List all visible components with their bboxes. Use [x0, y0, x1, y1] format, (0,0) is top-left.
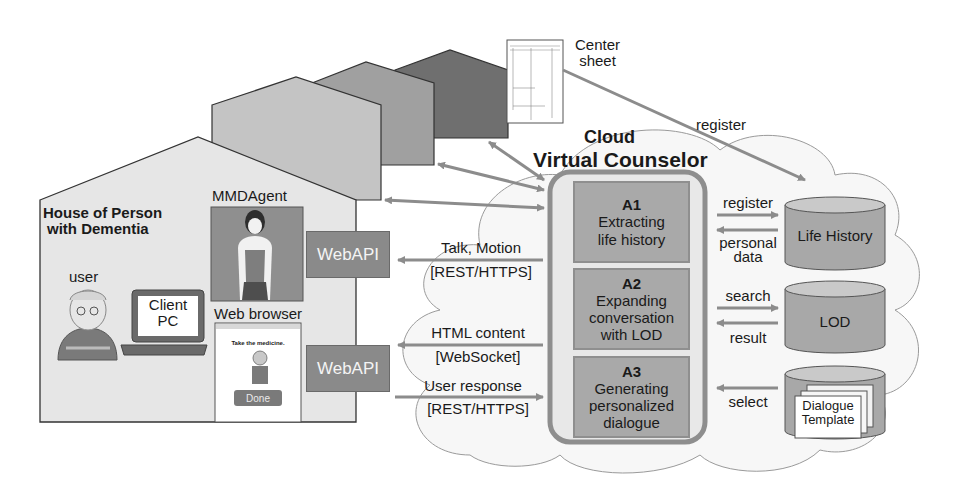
- web-browser-window: [215, 323, 301, 422]
- house-title-line1: House of Person: [43, 205, 162, 221]
- module-a1: A1 Extracting life history: [573, 181, 690, 263]
- center-sheet-icon: [507, 40, 563, 123]
- center-sheet-register-label: register: [696, 117, 746, 133]
- house-title: House of Person with Dementia: [43, 205, 162, 237]
- html-content-label: HTML content: [410, 325, 546, 341]
- module-a3-line3: dialogue: [603, 414, 660, 431]
- user-response-label: User response: [405, 378, 541, 394]
- module-a2-id: A2: [622, 275, 641, 292]
- talk-motion-protocol: [REST/HTTPS]: [413, 264, 549, 280]
- user-label: user: [69, 269, 98, 285]
- center-sheet-line2: sheet: [575, 53, 620, 69]
- webapi-top-box: WebAPI: [306, 231, 390, 278]
- module-a1-id: A1: [622, 196, 641, 213]
- module-a2-line1: Expanding: [596, 292, 667, 309]
- cloud-title: Cloud: [584, 128, 635, 147]
- module-a1-line1: Extracting: [598, 213, 665, 230]
- module-a3-line2: personalized: [589, 397, 674, 414]
- module-a3-line1: Generating: [594, 380, 668, 397]
- medicine-figure-icon: [252, 351, 268, 384]
- web-browser-label: Web browser: [214, 306, 302, 322]
- virtual-counselor-title: Virtual Counselor: [533, 149, 708, 171]
- module-a1-line2: life history: [598, 231, 666, 248]
- talk-motion-label: Talk, Motion: [416, 240, 546, 256]
- result-label: result: [713, 330, 783, 346]
- module-a2: A2 Expanding conversation with LOD: [573, 268, 690, 350]
- done-button[interactable]: Done: [234, 390, 282, 406]
- webapi-bottom-box: WebAPI: [306, 345, 390, 392]
- dialogue-template-db-label: Dialogue Template: [795, 399, 861, 428]
- lod-db-label: LOD: [785, 314, 885, 330]
- html-content-protocol: [WebSocket]: [410, 349, 546, 365]
- life-history-db-label: Life History: [785, 228, 885, 244]
- mmdagent-character-icon: [211, 207, 303, 301]
- personal-data-label: personal data: [713, 236, 783, 265]
- client-pc-line2: PC: [138, 313, 198, 329]
- search-label: search: [713, 288, 783, 304]
- center-sheet-line1: Center: [575, 37, 620, 53]
- module-a2-line3: with LOD: [601, 326, 663, 343]
- client-pc-line1: Client: [138, 297, 198, 313]
- house-title-line2: with Dementia: [43, 221, 162, 237]
- module-a3: A3 Generating personalized dialogue: [573, 356, 690, 438]
- mmdagent-label: MMDAgent: [212, 188, 287, 204]
- client-pc-label: Client PC: [138, 297, 198, 329]
- register-label: register: [713, 195, 783, 211]
- module-a3-id: A3: [622, 363, 641, 380]
- user-response-protocol: [REST/HTTPS]: [410, 401, 546, 417]
- module-a2-line2: conversation: [589, 309, 674, 326]
- dialogue-template-line2: Template: [795, 413, 861, 427]
- select-label: select: [713, 394, 783, 410]
- browser-prompt: Take the medicine.: [216, 340, 300, 346]
- personal-data-line2: data: [713, 250, 783, 264]
- dialogue-template-line1: Dialogue: [795, 399, 861, 413]
- center-sheet-label: Center sheet: [575, 37, 620, 69]
